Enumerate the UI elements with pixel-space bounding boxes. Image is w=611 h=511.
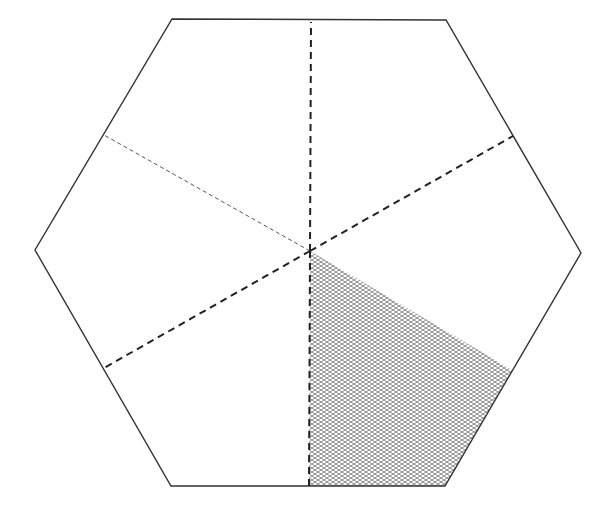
hexagon-diagram (0, 0, 611, 511)
divider-line-0 (310, 22, 311, 251)
divider-line-1 (310, 136, 513, 251)
divider-line-2 (104, 135, 310, 251)
shaded-sector (309, 251, 512, 486)
divider-line-3 (104, 251, 310, 368)
